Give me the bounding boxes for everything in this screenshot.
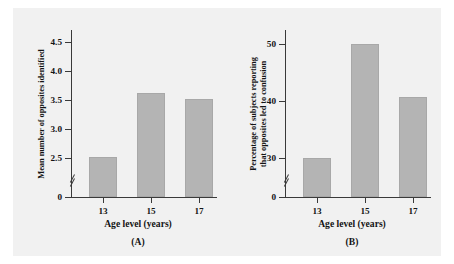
y-tick-label-a-35: 3.5: [51, 95, 62, 105]
y-tick-label-a-30: 3.0: [51, 124, 62, 134]
y-axis-line-b: [285, 30, 286, 198]
y-tick-label-a-0: 0: [57, 192, 62, 202]
bar-a-15: [137, 93, 165, 197]
y-tick-b-40: [279, 101, 286, 102]
x-tick-label-a-15: 15: [146, 206, 155, 216]
y-tick-a-45: [65, 42, 72, 43]
y-tick-b-50: [279, 44, 286, 45]
y-tick-label-b-30: 30: [267, 153, 276, 163]
y-axis-break-b: [282, 178, 291, 187]
chart-panel-a: Mean number of opposites identified 0 2.…: [13, 8, 227, 256]
panel-label-a: (A): [53, 236, 223, 247]
plot-area-b: 0 30 40 50 13 15 17: [285, 30, 419, 198]
y-tick-a-0: [65, 197, 72, 198]
x-tick-a-17: [199, 198, 200, 203]
x-tick-b-15: [365, 198, 366, 203]
y-axis-title-b: Percentage of subjects reporting that op…: [249, 28, 268, 200]
y-tick-label-a-45: 4.5: [51, 37, 62, 47]
panel-label-b: (B): [267, 236, 437, 247]
x-tick-a-15: [151, 198, 152, 203]
plot-area-a: 0 2.5 3.0 3.5 4.0 4.5 13 15 17: [71, 30, 205, 198]
y-tick-a-35: [65, 100, 72, 101]
bar-a-17: [185, 99, 213, 197]
figure-panel: Mean number of opposites identified 0 2.…: [13, 8, 441, 256]
y-tick-b-30: [279, 158, 286, 159]
y-axis-title-a: Mean number of opposites identified: [37, 30, 47, 198]
x-axis-title-a: Age level (years): [53, 218, 223, 229]
y-axis-title-b-line2: that opposites led to confusion: [259, 28, 269, 200]
y-tick-a-40: [65, 71, 72, 72]
y-tick-label-a-25: 2.5: [51, 153, 62, 163]
bar-b-13: [303, 158, 331, 197]
x-tick-label-a-17: 17: [194, 206, 203, 216]
y-tick-a-25: [65, 158, 72, 159]
x-axis-line-a: [71, 197, 217, 198]
x-tick-label-b-15: 15: [360, 206, 369, 216]
x-tick-label-a-13: 13: [98, 206, 107, 216]
y-axis-break-a: [68, 178, 77, 187]
y-axis-line-a: [71, 30, 72, 198]
y-tick-label-b-40: 40: [267, 96, 276, 106]
x-tick-b-17: [413, 198, 414, 203]
chart-panel-b: Percentage of subjects reporting that op…: [227, 8, 441, 256]
y-tick-b-0: [279, 197, 286, 198]
y-axis-title-b-line1: Percentage of subjects reporting: [249, 57, 258, 171]
y-tick-label-a-40: 4.0: [51, 66, 62, 76]
x-tick-label-b-17: 17: [408, 206, 417, 216]
bar-a-13: [89, 157, 117, 197]
y-tick-a-30: [65, 129, 72, 130]
y-tick-label-b-0: 0: [271, 192, 276, 202]
x-axis-title-b: Age level (years): [267, 218, 437, 229]
bar-b-17: [399, 97, 427, 197]
bar-b-15: [351, 44, 379, 197]
x-axis-line-b: [285, 197, 431, 198]
x-tick-b-13: [317, 198, 318, 203]
x-tick-label-b-13: 13: [312, 206, 321, 216]
y-tick-label-b-50: 50: [267, 39, 276, 49]
x-tick-a-13: [103, 198, 104, 203]
